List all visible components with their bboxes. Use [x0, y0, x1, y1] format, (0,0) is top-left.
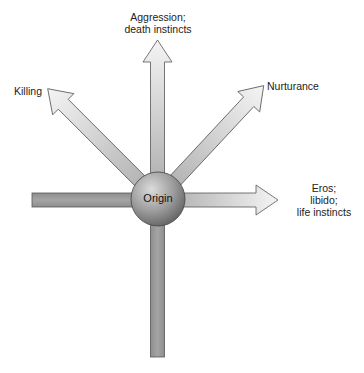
label-eros-line-1: Eros; — [284, 182, 364, 194]
label-eros-line-3: life instincts — [284, 206, 364, 218]
label-nurturance: Nurturance — [267, 80, 319, 92]
label-eros-line-2: libido; — [284, 194, 364, 206]
label-killing-line-1: Killing — [14, 85, 42, 97]
label-nurturance-line-1: Nurturance — [267, 80, 319, 92]
left-bar — [32, 193, 142, 207]
label-killing: Killing — [14, 85, 42, 97]
label-aggression-line-1: Aggression; — [102, 11, 214, 23]
origin-label: Origin — [128, 192, 188, 204]
label-eros: Eros; libido; life instincts — [284, 182, 364, 218]
down-bar — [151, 210, 165, 357]
label-aggression: Aggression; death instincts — [102, 11, 214, 35]
label-aggression-line-2: death instincts — [102, 23, 214, 35]
